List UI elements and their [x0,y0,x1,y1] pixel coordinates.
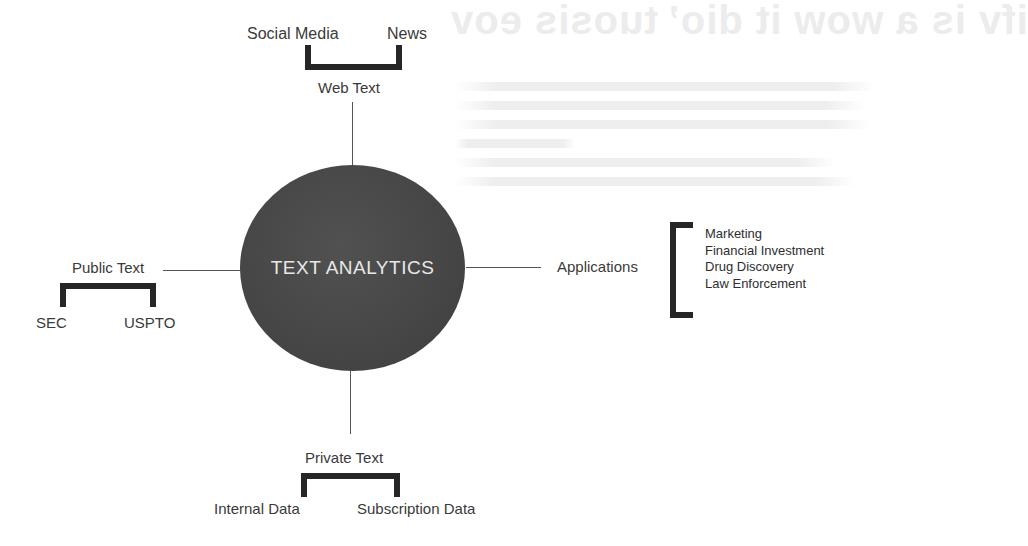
applications-bracket [670,222,693,318]
applications-label: Applications [557,259,638,274]
application-item-drug-discovery: Drug Discovery [705,259,824,276]
connector-top [352,102,353,166]
public-text-bracket [60,283,156,307]
internal-data-label: Internal Data [214,501,300,516]
web-text-label: Web Text [318,80,380,95]
news-label: News [387,26,427,42]
application-item-marketing: Marketing [705,226,824,243]
public-text-label: Public Text [72,260,144,275]
connector-right [466,267,541,268]
private-text-label: Private Text [305,450,383,465]
bleed-through-line [455,101,865,110]
private-text-bracket [301,473,400,497]
bleed-through-line [455,120,870,129]
bleed-through-line [455,82,875,91]
application-item-law-enforcement: Law Enforcement [705,276,824,293]
sec-label: SEC [36,315,67,330]
text-analytics-hub: TEXT ANALYTICS [240,165,465,371]
bleed-through-heading: ifv is a wow it dio’ tuosis eov [450,0,1028,43]
bleed-through-line [455,139,575,148]
web-text-bracket [305,45,402,70]
subscription-data-label: Subscription Data [357,501,475,516]
bleed-through-line [455,177,855,186]
application-item-financial-investment: Financial Investment [705,243,824,260]
connector-bottom [350,370,351,434]
applications-list: Marketing Financial Investment Drug Disc… [705,226,824,292]
connector-left [163,270,241,271]
bleed-through-line [455,158,835,167]
social-media-label: Social Media [247,26,339,42]
hub-label: TEXT ANALYTICS [271,257,435,279]
uspto-label: USPTO [124,315,175,330]
